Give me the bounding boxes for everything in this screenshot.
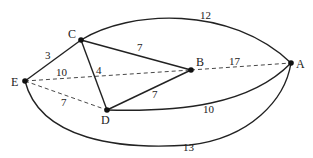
weight-C-A: 12 xyxy=(200,10,211,21)
edge-D-A xyxy=(107,63,291,110)
graph-edges xyxy=(0,0,313,158)
node-label-B: B xyxy=(196,56,204,68)
weight-B-A: 17 xyxy=(229,56,240,67)
weight-D-A: 10 xyxy=(203,104,214,115)
edge-C-A xyxy=(81,18,291,63)
node-C xyxy=(78,37,84,43)
node-label-A: A xyxy=(296,58,305,70)
weight-C-D: 4 xyxy=(96,65,102,76)
node-E xyxy=(22,78,28,84)
weight-E-C: 3 xyxy=(45,50,51,61)
weight-E-A: 13 xyxy=(183,142,194,153)
node-label-D: D xyxy=(101,114,110,126)
weight-E-D: 7 xyxy=(61,97,67,108)
node-label-E: E xyxy=(11,76,18,88)
node-D xyxy=(104,107,110,113)
edge-E-B xyxy=(25,70,191,81)
node-label-C: C xyxy=(68,28,76,40)
edge-E-C xyxy=(25,40,81,81)
weight-D-B: 7 xyxy=(152,89,158,100)
weight-C-B: 7 xyxy=(137,42,143,53)
weighted-graph-diagram: C B A E D 3 7 4 7 12 10 17 7 10 13 xyxy=(0,0,313,158)
edge-C-D xyxy=(81,40,107,110)
node-B xyxy=(188,67,194,73)
edge-D-B xyxy=(107,70,191,110)
edge-B-A xyxy=(191,63,291,70)
weight-E-B: 10 xyxy=(56,67,67,78)
node-A xyxy=(288,60,294,66)
